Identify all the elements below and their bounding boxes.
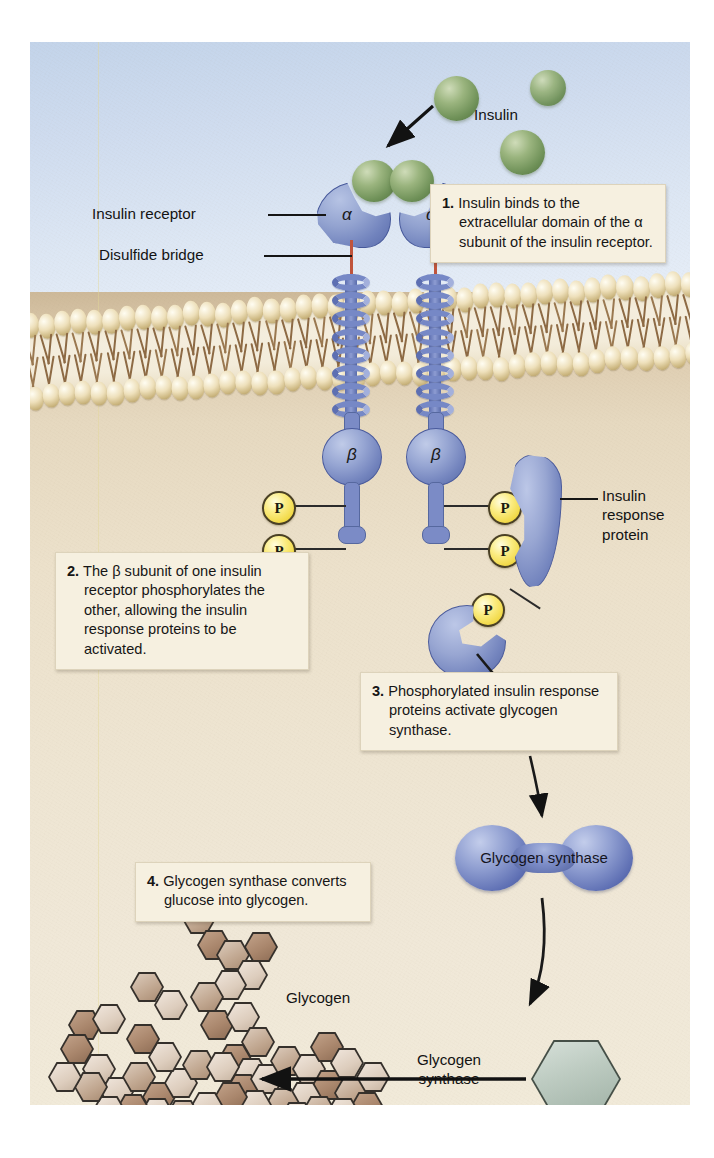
reaction-label-line-2: synthase xyxy=(419,1070,480,1087)
irp-label-line-3: protein xyxy=(602,526,648,543)
receptor-tail-foot-left xyxy=(338,526,366,544)
lipid-head xyxy=(524,351,543,376)
lipid-head xyxy=(540,351,559,376)
lipid-head xyxy=(122,378,141,403)
step-4-number: 4. xyxy=(147,873,159,889)
step-2-number: 2. xyxy=(67,563,79,579)
helix-turn xyxy=(332,310,370,327)
lipid-head xyxy=(154,375,173,400)
step-1-number: 1. xyxy=(442,195,454,211)
insulin-molecule-free-1 xyxy=(434,76,479,121)
lipid-head xyxy=(42,384,61,409)
helix-turn xyxy=(416,365,454,382)
receptor-tail-foot-right xyxy=(422,526,450,544)
lipid-head xyxy=(299,365,318,390)
insulin-receptor-leader-line xyxy=(268,214,326,216)
glycogen-glucose-unit xyxy=(154,990,188,1020)
helix-turn xyxy=(332,292,370,309)
insulin-molecule-free-2 xyxy=(500,130,545,175)
lipid-head xyxy=(283,367,302,392)
phosphate-link-left-upper xyxy=(292,505,346,507)
lipid-head xyxy=(572,351,591,376)
phosphate-link-left-lower xyxy=(292,548,346,550)
lipid-head xyxy=(70,308,89,334)
helix-turn xyxy=(332,365,370,382)
lipid-head xyxy=(251,371,270,396)
reaction-label-line-1: Glycogen xyxy=(417,1051,481,1068)
lipid-head xyxy=(395,361,414,386)
step-4-callout: 4. Glycogen synthase converts glucose in… xyxy=(135,862,371,922)
step-3-callout: 3. Phosphorylated insulin response prote… xyxy=(360,672,618,751)
insulin-molecule-bound-2 xyxy=(390,160,434,202)
lipid-head xyxy=(138,376,157,401)
helix-turn xyxy=(416,383,454,400)
helix-turn xyxy=(332,347,370,364)
lipid-head xyxy=(604,346,623,371)
irp-label-line-2: response xyxy=(602,506,664,523)
step-3-text: Phosphorylated insulin response proteins… xyxy=(388,683,599,738)
phosphate-group-response-protein: P xyxy=(471,593,505,627)
disulfide-bridge-leader-line xyxy=(264,255,352,257)
lipid-head xyxy=(492,356,511,381)
step-4-text: Glycogen synthase converts glucose into … xyxy=(163,873,346,908)
lipid-head xyxy=(267,370,286,395)
beta-subunit-left-label: β xyxy=(347,445,357,465)
lipid-head xyxy=(235,370,254,395)
receptor-transmembrane-helix-left xyxy=(332,274,370,420)
lipid-head xyxy=(219,370,238,395)
helix-turn xyxy=(416,310,454,327)
step-1-callout: 1. Insulin binds to the extracellular do… xyxy=(430,184,666,263)
glycogen-glucose-unit xyxy=(356,1062,390,1092)
lipid-head xyxy=(476,356,495,381)
lipid-head xyxy=(508,354,527,379)
glycogen-synthase-reaction-label: Glycogen synthase xyxy=(397,1050,501,1089)
glycogen-glucose-unit xyxy=(48,1062,82,1092)
lipid-head xyxy=(556,352,575,377)
lipid-head xyxy=(664,270,683,296)
lipid-head xyxy=(74,380,93,405)
lipid-head xyxy=(487,282,506,308)
lipid-head xyxy=(171,376,190,401)
alpha-subunit-left-label: α xyxy=(342,205,352,225)
lipid-head xyxy=(58,381,77,406)
glycogen-glucose-unit xyxy=(190,982,224,1012)
lipid-head xyxy=(203,373,222,398)
lipid-head xyxy=(187,375,206,400)
step-3-number: 3. xyxy=(372,683,384,699)
irp-label-line-1: Insulin xyxy=(602,487,646,504)
lipid-head xyxy=(460,355,479,380)
lipid-head xyxy=(246,297,265,323)
lipid-head xyxy=(315,366,334,391)
helix-turn xyxy=(332,329,370,346)
helix-turn xyxy=(332,274,370,291)
glycogen-glucose-unit xyxy=(280,1102,314,1105)
lipid-head xyxy=(620,346,639,371)
insulin-molecule-free-3 xyxy=(530,70,566,106)
phosphate-link-right-upper xyxy=(444,505,494,507)
lipid-head xyxy=(90,381,109,406)
response-protein-leader-line xyxy=(560,498,598,500)
lipid-head xyxy=(106,381,125,406)
step-2-callout: 2. The β subunit of one insulin receptor… xyxy=(55,552,309,670)
lipid-head xyxy=(379,360,398,385)
helix-turn xyxy=(416,292,454,309)
phosphate-group-left-upper: P xyxy=(262,491,296,525)
diagram-canvas: Insulin α α β β P P P P P Insulin respon… xyxy=(30,42,690,1105)
helix-turn xyxy=(416,347,454,364)
receptor-transmembrane-helix-right xyxy=(416,274,454,420)
glycogen-glucose-unit xyxy=(92,1004,126,1034)
glycogen-glucose-unit xyxy=(126,1024,160,1054)
lipid-head xyxy=(636,347,655,372)
glycogen-synthase-enzyme: Glycogen synthase xyxy=(455,825,633,891)
helix-turn xyxy=(416,329,454,346)
diagram-stage: Insulin α α β β P P P P P Insulin respon… xyxy=(0,0,714,1158)
glycogen-synthase-enzyme-label: Glycogen synthase xyxy=(455,849,633,866)
lipid-head xyxy=(182,301,201,327)
insulin-label: Insulin xyxy=(474,105,518,124)
lipid-head xyxy=(311,293,330,319)
lipid-head xyxy=(668,343,687,368)
step-1-text: Insulin binds to the extracellular domai… xyxy=(458,195,653,250)
lipid-head xyxy=(600,274,619,300)
step-2-text: The β subunit of one insulin receptor ph… xyxy=(83,563,265,657)
glycogen-glucose-unit xyxy=(244,932,278,962)
